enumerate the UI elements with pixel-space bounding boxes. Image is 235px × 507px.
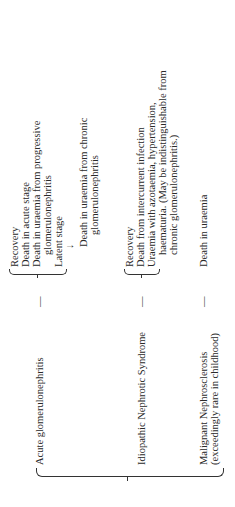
condition-note: (exceedingly rare in childhood) xyxy=(209,333,221,465)
dash: — xyxy=(198,297,210,308)
outcome: Death in uraemia from progressive xyxy=(31,121,43,267)
outcome: glomerulonephritis xyxy=(42,175,54,255)
outcome: glomerulonephritis xyxy=(89,155,101,235)
sub-brace-tip xyxy=(37,275,38,278)
outcome: Death in uraemia from chronic xyxy=(78,118,90,247)
condition-acute-glomerulonephritis: Acute glomerulonephritis xyxy=(34,357,46,465)
outcome: Uraemia with azotaemia, hypertension, xyxy=(146,102,158,267)
outcome: Death in acute stage xyxy=(20,182,32,267)
condition-malignant-nephrosclerosis: Malignant Nephrosclerosis xyxy=(198,352,210,465)
outcome: Recovery xyxy=(124,227,136,267)
outcome: Recovery xyxy=(9,227,21,267)
outcome: Latent stage xyxy=(53,216,65,267)
dash: — xyxy=(136,297,148,308)
outcome: Death from intercurrent infection xyxy=(135,127,147,267)
condition-idiopathic-nephrotic-syndrome: Idiopathic Nephrotic Syndrome xyxy=(136,332,148,465)
outcome: chronic glomerulonephritis.) xyxy=(168,135,180,255)
sub-brace xyxy=(9,269,67,275)
outcome: haematuria. (May be indistinguishable fr… xyxy=(157,70,169,255)
outer-brace-tip xyxy=(127,476,128,481)
dash: — xyxy=(34,297,46,308)
outcome: Death in uraemia xyxy=(198,195,210,267)
arrow-down-icon: ↓ xyxy=(64,244,76,249)
document-page: Acute glomerulonephritis — Recovery Deat… xyxy=(0,0,235,507)
sub-brace-tip xyxy=(141,275,142,278)
sub-brace xyxy=(124,269,160,275)
outer-brace xyxy=(36,468,224,477)
